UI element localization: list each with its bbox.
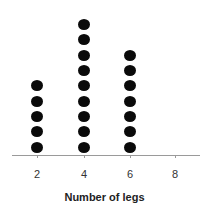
data-dot bbox=[31, 126, 43, 137]
dot-plot: 2468 Number of legs bbox=[0, 0, 209, 208]
x-tick-label: 2 bbox=[27, 168, 47, 180]
x-axis-line bbox=[12, 155, 200, 156]
data-dot bbox=[78, 142, 90, 153]
data-dot bbox=[31, 80, 43, 91]
x-tick-mark bbox=[84, 155, 85, 158]
data-dot bbox=[31, 96, 43, 107]
data-dot bbox=[31, 142, 43, 153]
x-tick-mark bbox=[130, 155, 131, 158]
data-dot bbox=[31, 111, 43, 122]
data-dot bbox=[124, 50, 136, 61]
data-dot bbox=[124, 126, 136, 137]
x-tick-label: 4 bbox=[74, 168, 94, 180]
x-tick-label: 6 bbox=[120, 168, 140, 180]
data-dot bbox=[78, 34, 90, 45]
x-axis-title: Number of legs bbox=[0, 191, 209, 203]
data-dot bbox=[78, 50, 90, 61]
data-dot bbox=[124, 65, 136, 76]
data-dot bbox=[78, 19, 90, 30]
data-dot bbox=[124, 142, 136, 153]
x-tick-mark bbox=[175, 155, 176, 158]
x-tick-mark bbox=[37, 155, 38, 158]
x-tick-label: 8 bbox=[165, 168, 185, 180]
data-dot bbox=[78, 111, 90, 122]
data-dot bbox=[78, 126, 90, 137]
data-dot bbox=[124, 80, 136, 91]
data-dot bbox=[78, 96, 90, 107]
data-dot bbox=[124, 96, 136, 107]
data-dot bbox=[78, 65, 90, 76]
data-dot bbox=[78, 80, 90, 91]
data-dot bbox=[124, 111, 136, 122]
